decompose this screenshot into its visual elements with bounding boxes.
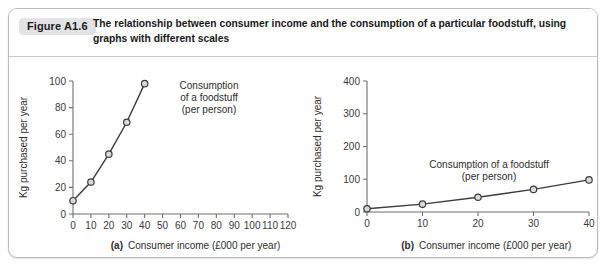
x-tick-label: 0 [364,218,370,229]
data-point-marker [475,194,481,200]
x-tick-label: 40 [139,220,151,231]
y-axis-title: Kg purchased per year [312,95,323,197]
x-tick-label: 110 [262,220,278,231]
data-point-marker [364,206,370,212]
data-point-marker [70,198,76,204]
y-tick-label: 20 [55,182,67,193]
x-tick-label: 30 [121,220,133,231]
data-point-marker [106,151,112,157]
chart-panel-a-svg: 0102030405060708090100110120020406080100… [9,57,304,258]
y-tick-label: 80 [55,102,67,113]
chart-panel-a: 0102030405060708090100110120020406080100… [9,57,304,258]
series-line [73,84,145,201]
y-tick-label: 0 [354,207,360,218]
data-point-marker [141,80,147,86]
figure-caption-band: Figure A1.6 The relationship between con… [9,9,597,57]
data-point-marker [124,119,130,125]
x-tick-label: 10 [417,218,429,229]
x-tick-label: 60 [175,220,187,231]
x-tick-label: 20 [472,218,484,229]
y-tick-label: 40 [55,155,67,166]
x-tick-label: 0 [70,220,76,231]
x-tick-label: 90 [229,220,241,231]
x-tick-label: 100 [244,220,261,231]
y-tick-label: 200 [343,141,360,152]
y-tick-label: 100 [343,174,360,185]
y-tick-label: 400 [343,76,360,87]
series-annotation-line: of a foodstuff [180,92,238,103]
x-tick-label: 40 [583,218,595,229]
series-annotation-line: Consumption of a foodstuff [429,159,549,170]
x-tick-label: 20 [103,220,115,231]
data-point-marker [419,201,425,207]
series-annotation-line: (per person) [462,171,516,182]
y-tick-label: 100 [49,76,66,87]
axis-lines [367,81,589,212]
x-axis-title: Consumer income (£000 per year) [419,240,571,251]
series-annotation-line: Consumption [180,80,239,91]
data-point-marker [88,179,94,185]
x-tick-label: 30 [528,218,540,229]
chart-panel-b-svg: 0102030400100200300400Kg purchased per y… [304,57,598,258]
figure-number-chip: Figure A1.6 [19,18,96,35]
x-tick-label: 120 [280,220,297,231]
y-axis-title: Kg purchased per year [18,96,29,198]
y-tick-label: 0 [60,209,66,220]
x-tick-label: 80 [211,220,223,231]
x-tick-label: 50 [157,220,169,231]
series-annotation-line: (per person) [182,104,236,115]
figure-caption-text: The relationship between consumer income… [93,17,585,46]
panel-letter: (b) [401,240,414,251]
y-tick-label: 60 [55,129,67,140]
panel-letter: (a) [111,240,123,251]
figure-frame: Figure A1.6 The relationship between con… [8,8,598,258]
x-tick-label: 70 [193,220,205,231]
data-point-marker [586,177,592,183]
x-axis-title: Consumer income (£000 per year) [128,240,280,251]
y-tick-label: 300 [343,108,360,119]
chart-panel-b: 0102030400100200300400Kg purchased per y… [304,57,598,258]
x-tick-label: 10 [85,220,97,231]
data-point-marker [530,186,536,192]
